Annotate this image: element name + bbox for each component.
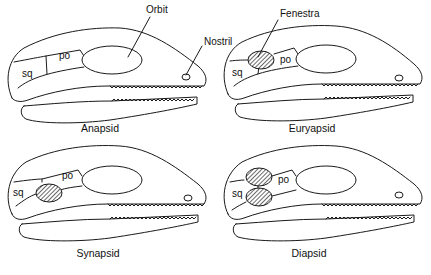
skull-euryapsid-drawing xyxy=(216,0,431,137)
fenestra-lower xyxy=(36,184,62,202)
nostril xyxy=(395,192,403,198)
panel-anapsid: sq po Orbit Nostril Anapsid xyxy=(0,0,215,137)
fenestra-lower xyxy=(246,188,272,206)
label-squamosal: sq xyxy=(232,68,243,78)
lower-jaw xyxy=(21,97,197,123)
caption-synapsid: Synapsid xyxy=(76,248,119,259)
caption-diapsid: Diapsid xyxy=(291,248,326,259)
label-squamosal: sq xyxy=(13,188,24,198)
lower-teeth xyxy=(324,97,410,99)
lower-teeth xyxy=(112,99,194,101)
nostril xyxy=(184,195,192,201)
fenestra-upper xyxy=(248,51,274,69)
panel-synapsid: sq po Synapsid xyxy=(0,138,215,275)
callout-fenestra: Fenestra xyxy=(280,9,319,19)
label-squamosal: sq xyxy=(22,69,33,79)
lower-teeth xyxy=(326,217,412,219)
lower-teeth xyxy=(110,217,196,219)
label-squamosal: sq xyxy=(232,189,243,199)
nostril xyxy=(395,75,403,81)
label-postorbital: po xyxy=(62,171,73,181)
caption-anapsid: Anapsid xyxy=(81,123,119,134)
label-postorbital: po xyxy=(280,55,291,65)
panel-diapsid: sq po Diapsid xyxy=(216,138,431,275)
lower-jaw xyxy=(233,215,414,241)
orbit xyxy=(296,166,356,194)
orbit xyxy=(296,45,356,73)
lower-jaw xyxy=(19,215,198,241)
label-postorbital: po xyxy=(278,175,289,185)
panel-euryapsid: sq po Fenestra Euryapsid xyxy=(216,0,431,137)
fenestra-upper xyxy=(246,168,272,186)
orbit xyxy=(82,46,142,74)
callout-orbit: Orbit xyxy=(146,5,168,15)
label-postorbital: po xyxy=(59,51,70,61)
caption-euryapsid: Euryapsid xyxy=(289,123,336,134)
orbit xyxy=(82,166,142,194)
